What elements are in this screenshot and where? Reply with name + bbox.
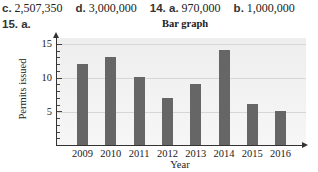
answer-row: c. 2,507,350 d. 3,000,000 14. a. 970,000… (2, 0, 305, 16)
x-tick-label-2015: 2015 (238, 148, 266, 160)
x-axis-arrow-icon (302, 142, 308, 148)
y-axis-arrow-icon (53, 32, 59, 38)
bar-2016 (275, 111, 286, 145)
question-number: 15. (2, 18, 18, 30)
y-tick-label-15: 15 (38, 39, 52, 49)
x-axis-label: Year (160, 159, 200, 171)
bar-2013 (190, 84, 201, 145)
gridline-10 (56, 78, 306, 79)
x-tick-label-2010: 2010 (97, 148, 125, 160)
bar-2009 (77, 64, 88, 145)
x-tick-label-2014: 2014 (210, 148, 238, 160)
question-15-label: 15. a. (2, 16, 31, 32)
gridline-5 (56, 112, 306, 113)
answer-value-c: 2,507,350 (15, 1, 63, 15)
x-tick-label-2016: 2016 (267, 148, 295, 160)
bar-2012 (162, 98, 173, 145)
question-part: a. (21, 18, 31, 30)
gridline-15 (56, 44, 306, 45)
x-tick-label-2009: 2009 (69, 148, 97, 160)
y-tick-label-10: 10 (38, 73, 52, 83)
y-axis-label: Permits issued (17, 54, 29, 124)
bar-2011 (134, 77, 145, 145)
x-tick-label-2011: 2011 (125, 148, 153, 160)
y-tick-label-5: 5 (38, 107, 52, 117)
y-axis (56, 36, 57, 146)
chart-title: Bar graph (140, 17, 230, 31)
bar-2015 (247, 104, 258, 145)
bar-2010 (105, 57, 116, 145)
answer-label-14b: b. (234, 2, 244, 14)
answer-label-c: c. (2, 2, 12, 14)
answer-value-14b: 1,000,000 (247, 1, 295, 15)
answer-value-14a: 970,000 (182, 1, 221, 15)
answer-label-d: d. (76, 2, 86, 14)
answer-label-14a: 14. a. (150, 2, 179, 14)
x-axis (56, 145, 304, 146)
answer-value-d: 3,000,000 (89, 1, 137, 15)
bar-2014 (219, 50, 230, 145)
plot-area (56, 38, 306, 145)
